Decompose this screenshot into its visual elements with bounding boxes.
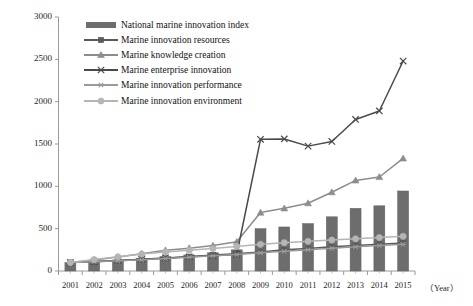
marker-circle xyxy=(91,256,97,262)
legend-item[interactable]: National marine innovation index xyxy=(84,17,249,32)
marker-circle xyxy=(115,254,121,260)
legend-marker-glyph xyxy=(96,95,107,106)
marker-circle xyxy=(139,251,145,257)
marker-triangle xyxy=(400,155,407,161)
legend-item-label: Marine knowledge creation xyxy=(118,50,225,60)
marker-circle xyxy=(281,240,287,246)
chart-container: 300025002000150010005000 200120022003200… xyxy=(0,0,473,306)
legend-item[interactable]: Marine innovation environment xyxy=(84,93,249,108)
marker-circle xyxy=(67,259,73,265)
legend-marker-asterisk-icon xyxy=(84,79,118,91)
legend-marker-shape xyxy=(98,83,104,87)
chart-legend: National marine innovation indexMarine i… xyxy=(84,17,249,108)
marker-square xyxy=(98,37,103,42)
bar xyxy=(398,191,409,271)
legend-marker-shape xyxy=(98,52,105,58)
legend-marker-glyph xyxy=(96,34,107,45)
legend-item[interactable]: Marine knowledge creation xyxy=(84,47,249,62)
legend-marker-shape xyxy=(98,97,104,103)
legend-marker-glyph xyxy=(96,65,107,76)
legend-marker-shape xyxy=(98,37,103,42)
legend-marker-bar-icon xyxy=(84,19,118,31)
marker-circle xyxy=(98,97,104,103)
marker-circle xyxy=(234,243,240,249)
legend-marker-square-icon xyxy=(84,34,118,46)
legend-marker-glyph xyxy=(96,80,107,91)
legend-item-label: Marine innovation resources xyxy=(118,35,230,45)
marker-circle xyxy=(162,249,168,255)
marker-circle xyxy=(329,237,335,243)
legend-item-label: Marine innovation environment xyxy=(118,96,242,106)
legend-marker-x-icon xyxy=(84,64,118,76)
legend-item-label: National marine innovation index xyxy=(118,20,249,30)
legend-item-label: Marine enterprise innovation xyxy=(118,65,231,75)
marker-circle xyxy=(376,234,382,240)
legend-marker-triangle-icon xyxy=(84,49,118,61)
legend-item-label: Marine innovation performance xyxy=(118,80,242,90)
legend-item[interactable]: Marine innovation resources xyxy=(84,32,249,47)
marker-circle xyxy=(210,245,216,251)
marker-circle xyxy=(352,236,358,242)
legend-marker-circle-icon xyxy=(84,95,118,107)
legend-marker-glyph xyxy=(96,49,107,60)
marker-circle xyxy=(400,233,406,239)
marker-circle xyxy=(257,241,263,247)
bar xyxy=(326,217,337,271)
legend-bar-swatch xyxy=(86,22,116,28)
legend-item[interactable]: Marine enterprise innovation xyxy=(84,63,249,78)
marker-circle xyxy=(305,238,311,244)
legend-item[interactable]: Marine innovation performance xyxy=(84,78,249,93)
marker-circle xyxy=(186,247,192,253)
legend-marker-shape xyxy=(98,67,104,73)
marker-triangle xyxy=(98,52,105,58)
